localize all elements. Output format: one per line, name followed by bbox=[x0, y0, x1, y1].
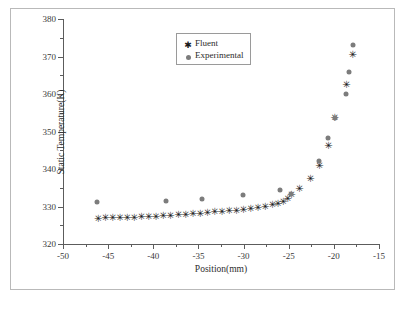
data-point-fluent: ✳ bbox=[342, 80, 351, 89]
x-tick-minor bbox=[131, 244, 132, 247]
x-tick-major bbox=[108, 244, 109, 249]
x-axis-label: Position(mm) bbox=[195, 264, 247, 274]
data-point-experimental bbox=[200, 197, 205, 202]
y-tick-label: 370 bbox=[43, 52, 57, 62]
data-point-experimental bbox=[317, 159, 322, 164]
x-tick-major bbox=[198, 244, 199, 249]
y-tick-label: 330 bbox=[43, 202, 57, 212]
data-point-experimental bbox=[95, 199, 100, 204]
data-point-experimental bbox=[277, 188, 282, 193]
x-tick-major bbox=[244, 244, 245, 249]
data-point-fluent: ✳ bbox=[348, 49, 357, 58]
y-tick-minor bbox=[60, 225, 63, 226]
x-tick-minor bbox=[86, 244, 87, 247]
x-tick-major bbox=[289, 244, 290, 249]
legend-label-experimental: Experimental bbox=[195, 50, 243, 60]
legend-label-fluent: Fluent bbox=[195, 38, 218, 48]
x-tick-label: -30 bbox=[238, 251, 250, 261]
x-tick-label: -15 bbox=[373, 251, 385, 261]
data-point-experimental bbox=[240, 192, 245, 197]
data-point-experimental bbox=[344, 92, 349, 97]
x-tick-label: -45 bbox=[102, 251, 114, 261]
y-tick-label: 320 bbox=[43, 239, 57, 249]
data-point-fluent: ✳ bbox=[306, 174, 315, 183]
y-tick-minor bbox=[60, 75, 63, 76]
y-tick-major bbox=[58, 57, 63, 58]
legend-item-experimental[interactable]: Experimental bbox=[181, 49, 243, 61]
circle-marker-icon bbox=[181, 46, 195, 64]
x-tick-minor bbox=[266, 244, 267, 247]
x-tick-major bbox=[63, 244, 64, 249]
y-tick-label: 360 bbox=[43, 89, 57, 99]
y-tick-label: 380 bbox=[43, 14, 57, 24]
x-tick-label: -35 bbox=[192, 251, 204, 261]
x-tick-label: -40 bbox=[147, 251, 159, 261]
x-tick-minor bbox=[176, 244, 177, 247]
data-point-fluent: ✳ bbox=[324, 140, 333, 149]
data-point-experimental bbox=[163, 199, 168, 204]
y-tick-label: 350 bbox=[43, 127, 57, 137]
x-tick-minor bbox=[356, 244, 357, 247]
x-tick-label: -20 bbox=[328, 251, 340, 261]
y-tick-minor bbox=[60, 38, 63, 39]
x-tick-label: -50 bbox=[57, 251, 69, 261]
data-point-experimental bbox=[326, 136, 331, 141]
y-tick-minor bbox=[60, 188, 63, 189]
x-tick-major bbox=[379, 244, 380, 249]
y-axis-label: Static Temperature(K) bbox=[56, 89, 66, 174]
x-tick-minor bbox=[221, 244, 222, 247]
data-point-fluent: ✳ bbox=[295, 183, 304, 192]
plot-area: 320330340350360370380 -50-45-40-35-30-25… bbox=[63, 19, 379, 244]
x-tick-label: -25 bbox=[283, 251, 295, 261]
y-tick-major bbox=[58, 207, 63, 208]
x-tick-minor bbox=[311, 244, 312, 247]
data-point-experimental bbox=[332, 115, 337, 120]
y-tick-major bbox=[58, 19, 63, 20]
data-point-experimental bbox=[350, 43, 355, 48]
x-tick-major bbox=[153, 244, 154, 249]
data-point-experimental bbox=[347, 69, 352, 74]
x-tick-major bbox=[334, 244, 335, 249]
chart-legend[interactable]: ✱ Fluent Experimental bbox=[176, 33, 251, 65]
y-tick-label: 340 bbox=[43, 164, 57, 174]
figure-frame: 320330340350360370380 -50-45-40-35-30-25… bbox=[10, 8, 395, 290]
data-point-experimental bbox=[288, 192, 293, 197]
